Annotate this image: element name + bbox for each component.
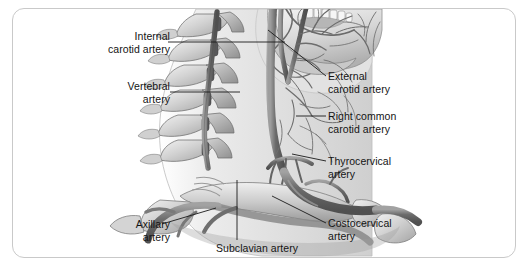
label-external-carotid-artery: External carotid artery	[328, 70, 448, 95]
label-axillary-artery: Axillary artery	[60, 218, 170, 243]
label-internal-carotid-artery: Internal carotid artery	[60, 30, 170, 55]
label-thyrocervical-artery: Thyrocervical artery	[328, 155, 448, 180]
label-vertebral-artery: Vertebral artery	[60, 80, 170, 105]
label-subclavian-artery: Subclavian artery	[182, 242, 332, 255]
label-costocervical-artery: Costocervical artery	[328, 217, 448, 242]
label-right-common-carotid-artery: Right common carotid artery	[328, 110, 448, 135]
